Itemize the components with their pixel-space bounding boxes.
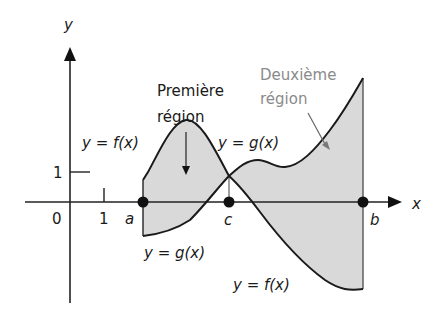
second-region-label-line2: région: [260, 90, 307, 108]
label-g-upper: y = g(x): [217, 134, 279, 152]
point-a: [138, 197, 149, 208]
y-axis-arrow-icon: [64, 47, 76, 61]
label-a: a: [125, 210, 134, 228]
x-axis-arrow-icon: [388, 196, 402, 208]
y-axis-label: y: [63, 16, 74, 34]
second-region-label-line1: Deuxième: [260, 66, 336, 84]
origin-label: 0: [52, 210, 62, 228]
label-g-lower: y = g(x): [143, 244, 205, 262]
label-f-lower: y = f(x): [232, 276, 290, 294]
x-tick-label: 1: [99, 210, 109, 228]
label-b: b: [370, 211, 380, 229]
point-b: [358, 197, 369, 208]
area-between-curves-diagram: y x 0 1 1 a c b y = f(x) y = g(x) y = g(…: [0, 0, 448, 323]
y-tick-label: 1: [53, 164, 63, 182]
label-f-upper: y = f(x): [81, 134, 139, 152]
x-axis-label: x: [411, 195, 421, 213]
label-c: c: [224, 211, 233, 229]
point-c: [224, 197, 235, 208]
first-region-label-line1: Première: [157, 82, 224, 100]
y-axis: [64, 47, 76, 303]
first-region-label-line2: région: [157, 108, 204, 126]
